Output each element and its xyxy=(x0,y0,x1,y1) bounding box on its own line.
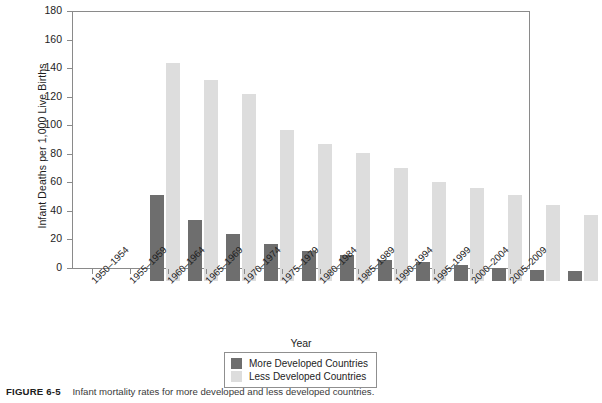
legend-item-more-developed: More Developed Countries xyxy=(231,357,368,370)
legend-swatch-more-developed xyxy=(231,358,242,369)
bar-less-developed xyxy=(318,144,333,281)
bars-layer xyxy=(146,24,602,281)
y-axis-label: Infant Deaths per 1,000 Live Births xyxy=(36,16,48,276)
y-axis-tick-label: 160 xyxy=(44,33,62,45)
y-axis-tick-label: 100 xyxy=(44,118,62,130)
bar-more-developed xyxy=(568,271,583,281)
bar-less-developed xyxy=(546,205,561,281)
bar-less-developed xyxy=(242,94,257,281)
bar-less-developed xyxy=(584,215,599,281)
bar-more-developed xyxy=(530,270,545,281)
y-axis-tick-label: 0 xyxy=(56,261,62,273)
y-axis-tick-label: 20 xyxy=(50,232,62,244)
x-axis-label: Year xyxy=(72,337,530,349)
bar-more-developed xyxy=(492,268,507,281)
legend-item-less-developed: Less Developed Countries xyxy=(231,370,368,383)
legend-swatch-less-developed xyxy=(231,371,242,382)
bar-less-developed xyxy=(356,153,371,282)
caption-figure-number: FIGURE 6-5 xyxy=(6,386,61,397)
chart-legend: More Developed Countries Less Developed … xyxy=(224,352,377,388)
y-axis-tick-label: 40 xyxy=(50,204,62,216)
plot-area xyxy=(72,11,530,269)
y-axis-tick-label: 120 xyxy=(44,90,62,102)
caption-text: Infant mortality rates for more develope… xyxy=(72,386,374,397)
figure-caption: FIGURE 6-5 Infant mortality rates for mo… xyxy=(6,386,546,397)
legend-label-more-developed: More Developed Countries xyxy=(249,358,368,369)
bar-less-developed xyxy=(166,63,181,281)
bar-less-developed xyxy=(280,130,295,281)
y-axis-tick-label: 80 xyxy=(50,147,62,159)
y-axis-tick-label: 140 xyxy=(44,61,62,73)
y-axis-tick-label: 60 xyxy=(50,175,62,187)
y-axis-tick-label: 180 xyxy=(44,4,62,16)
legend-label-less-developed: Less Developed Countries xyxy=(249,371,366,382)
